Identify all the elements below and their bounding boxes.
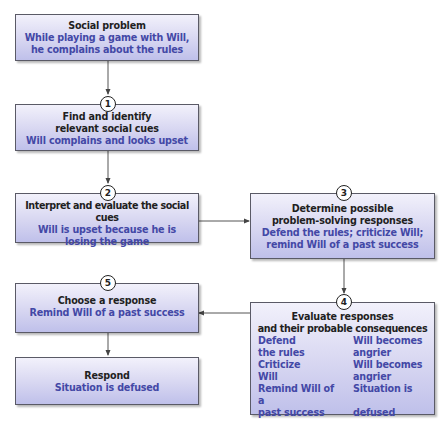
respond-title: Respond	[16, 370, 198, 382]
step-2-number-badge: 2	[100, 185, 116, 201]
step-2-desc-line1: Will is upset because he is	[16, 224, 198, 236]
step-3-title-line1: Determine possible	[251, 203, 434, 215]
step-1-title-line2: relevant social cues	[16, 123, 198, 135]
step-1-title-line1: Find and identify	[16, 111, 198, 123]
step-4-title-line1: Evaluate responses	[251, 311, 434, 323]
step-3-title-line2: problem-solving responses	[251, 215, 434, 227]
step-3-desc-line1: Defend the rules; criticize Will;	[251, 227, 434, 239]
social-problem-desc-line1: While playing a game with Will,	[16, 32, 198, 44]
consequence-1-line1: Will becomes	[343, 335, 428, 347]
response-1-line2: the rules	[258, 347, 343, 359]
consequence-1-line2: angrier	[343, 347, 428, 359]
step-5-title: Choose a response	[16, 295, 198, 307]
step-4-number-badge: 4	[336, 294, 352, 310]
step-2-desc-line2: losing the game	[16, 236, 198, 248]
response-3-line2: past success	[258, 407, 343, 419]
response-2-line1: Criticize	[258, 359, 343, 371]
respond-desc: Situation is defused	[16, 382, 198, 394]
consequence-2-line2: angrier	[343, 371, 428, 383]
consequence-2-line1: Will becomes	[343, 359, 428, 371]
social-problem-box: Social problem While playing a game with…	[15, 14, 199, 61]
consequence-3-line2: defused	[343, 407, 428, 419]
response-3-line1: Remind Will of a	[258, 383, 343, 407]
step-4-title-line2: and their probable consequences	[251, 323, 434, 335]
response-consequence-table: Defend Will becomes the rules angrier Cr…	[251, 335, 434, 419]
response-2-line2: Will	[258, 371, 343, 383]
social-problem-desc-line2: he complains about the rules	[16, 44, 198, 56]
step-5-desc: Remind Will of a past success	[16, 307, 198, 319]
step-4-box: Evaluate responses and their probable co…	[250, 302, 435, 415]
step-1-number-badge: 1	[100, 96, 116, 112]
step-1-desc: Will complains and looks upset	[16, 135, 198, 147]
step-3-desc-line2: remind Will of a past success	[251, 239, 434, 251]
response-1-line1: Defend	[258, 335, 343, 347]
consequence-3-line1: Situation is	[343, 383, 428, 407]
step-5-number-badge: 5	[100, 275, 116, 291]
respond-box: Respond Situation is defused	[15, 357, 199, 405]
step-2-title: Interpret and evaluate the social cues	[16, 200, 198, 224]
social-problem-title: Social problem	[16, 20, 198, 32]
step-3-number-badge: 3	[336, 185, 352, 201]
step-3-box: Determine possible problem-solving respo…	[250, 193, 435, 259]
